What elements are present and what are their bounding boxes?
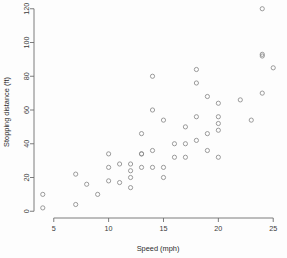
figure-background xyxy=(0,0,287,258)
y-tick-label: 60 xyxy=(22,106,31,114)
x-axis-title: Speed (mph) xyxy=(137,244,180,253)
y-axis-title: Stopping distance (ft) xyxy=(2,77,11,147)
plot-svg: 020406080100120 510152025 Speed (mph) St… xyxy=(0,0,287,258)
scatter-plot-figure: 020406080100120 510152025 Speed (mph) St… xyxy=(0,0,287,258)
y-tick-label: 100 xyxy=(22,37,31,49)
y-tick-label: 0 xyxy=(22,209,31,213)
x-tick-label: 5 xyxy=(52,224,56,233)
x-tick-label: 10 xyxy=(105,224,113,233)
x-tick-label: 20 xyxy=(214,224,222,233)
y-tick-label: 40 xyxy=(22,140,31,148)
x-tick-label: 15 xyxy=(159,224,167,233)
y-tick-label: 80 xyxy=(22,72,31,80)
y-tick-label: 20 xyxy=(22,174,31,182)
y-tick-label: 120 xyxy=(22,3,31,15)
x-tick-label: 25 xyxy=(269,224,277,233)
